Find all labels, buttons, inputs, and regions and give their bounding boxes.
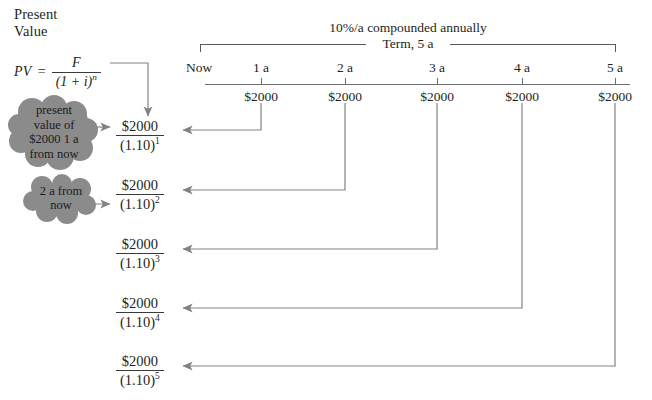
pv-term-exponent: 2 — [155, 194, 160, 205]
pv-term-fraction: $2000 (1.10)3 — [116, 236, 164, 271]
callout-cloud-1: present value of $2000 1 a from now — [8, 96, 100, 168]
cashflow1-arrow — [183, 103, 261, 130]
pv-term-denominator: (1.10)5 — [116, 371, 164, 388]
pv-term-exponent: 4 — [155, 312, 160, 323]
cashflow2-arrow — [183, 103, 345, 190]
pv-term: $2000 (1.10)2 — [116, 177, 164, 212]
formula-to-term-arrow — [110, 63, 148, 116]
pv-term-denominator-base: (1.10) — [120, 255, 155, 271]
pv-term-numerator: $2000 — [118, 295, 162, 312]
pv-term-numerator: $2000 — [118, 118, 162, 135]
pv-term-fraction: $2000 (1.10)5 — [116, 353, 164, 388]
pv-term: $2000 (1.10)3 — [116, 236, 164, 271]
pv-term-exponent: 3 — [155, 253, 160, 264]
pv-term-denominator-base: (1.10) — [120, 196, 155, 212]
pv-term-fraction: $2000 (1.10)1 — [116, 118, 164, 153]
pv-term-fraction: $2000 (1.10)2 — [116, 177, 164, 212]
cloud-icon — [22, 174, 100, 222]
pv-term: $2000 (1.10)5 — [116, 353, 164, 388]
cashflow4-arrow — [183, 103, 522, 308]
pv-term: $2000 (1.10)1 — [116, 118, 164, 153]
pv-term-exponent: 5 — [155, 370, 160, 381]
pv-term-denominator-base: (1.10) — [120, 137, 155, 153]
pv-term-denominator: (1.10)4 — [116, 313, 164, 330]
cashflow5-arrow — [183, 103, 615, 366]
pv-term-denominator-base: (1.10) — [120, 372, 155, 388]
cashflow3-arrow — [183, 103, 437, 249]
pv-term: $2000 (1.10)4 — [116, 295, 164, 330]
pv-term-denominator: (1.10)1 — [116, 136, 164, 153]
pv-term-numerator: $2000 — [118, 353, 162, 370]
cloud-icon — [8, 96, 100, 168]
pv-term-denominator: (1.10)3 — [116, 254, 164, 271]
pv-term-exponent: 1 — [155, 135, 160, 146]
callout-cloud-2: 2 a from now — [22, 174, 100, 222]
pv-term-denominator: (1.10)2 — [116, 195, 164, 212]
pv-term-fraction: $2000 (1.10)4 — [116, 295, 164, 330]
pv-term-numerator: $2000 — [118, 177, 162, 194]
pv-term-numerator: $2000 — [118, 236, 162, 253]
pv-term-denominator-base: (1.10) — [120, 314, 155, 330]
present-value-diagram: Present Value PV = F (1 + i)n 10%/a comp… — [0, 0, 652, 400]
